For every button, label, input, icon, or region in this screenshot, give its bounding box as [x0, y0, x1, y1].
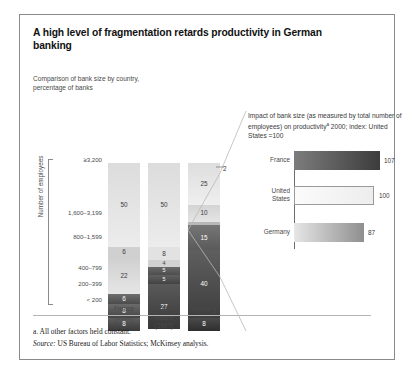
segment-france-400-799: 6 — [108, 294, 140, 304]
productivity-row-germany: Germany 87 — [248, 223, 408, 249]
segment-value: 5 — [148, 269, 180, 274]
segment-value: 40 — [188, 281, 220, 287]
band-label-200-399: 200–399 — [78, 280, 102, 287]
footnote-divider — [33, 315, 371, 316]
rtitle-line-2b: 2000; — [329, 123, 347, 130]
segment-value: 50 — [148, 202, 180, 208]
productivity-label-germany: Germany — [248, 228, 290, 236]
axis-title-number-of-employees: Number of employees — [37, 137, 44, 237]
exhibit-card: A high level of fragmentation retards pr… — [19, 14, 395, 360]
source-line: Source: US Bureau of Labor Statistics; M… — [33, 338, 383, 350]
productivity-bar-germany — [294, 223, 364, 242]
category-label-germany: Germany (2000) — [181, 305, 227, 322]
segment-france-800-1599: 22 — [108, 257, 140, 294]
productivity-row-france: France 107 — [248, 151, 408, 177]
segment-france-3200plus: 50 — [108, 163, 140, 247]
segment-value: 50 — [108, 202, 140, 208]
rtitle-line-1: Impact of bank size (as measured by tota… — [248, 112, 370, 119]
productivity-value-france: 107 — [384, 157, 395, 164]
productivity-value-germany: 87 — [368, 229, 375, 236]
productivity-chart-title: Impact of bank size (as measured by tota… — [248, 111, 408, 140]
segment-value: 15 — [188, 235, 220, 241]
productivity-bar-france — [294, 151, 380, 170]
productivity-label-united-states: United States — [248, 187, 290, 203]
segment-germany-400-799: 15 — [188, 225, 220, 250]
productivity-row-united-states: United States 100 — [248, 186, 408, 212]
segment-value: 6 — [108, 249, 140, 255]
segment-value: 8 — [148, 250, 180, 256]
source-text: US Bureau of Labor Statistics; McKinsey … — [58, 339, 209, 348]
productivity-bar-united-states — [294, 186, 374, 205]
bank-size-chart: Number of employees ≥3,200 1,600–3,199 8… — [20, 15, 230, 331]
band-label-400-799: 400–799 — [78, 264, 102, 271]
band-label-800-1599: 800–1,599 — [73, 233, 102, 240]
footnote-a: a. All other factors held constant. — [33, 326, 383, 338]
footnotes: a. All other factors held constant. Sour… — [33, 326, 383, 350]
axis-bracket — [48, 159, 53, 305]
label-line: France — [248, 156, 290, 164]
productivity-label-france: France — [248, 156, 290, 164]
band-label-under-200: < 200 — [87, 296, 102, 303]
segment-value: 5 — [148, 277, 180, 282]
callout-value-2: 2 — [223, 165, 227, 172]
source-label: Source: — [33, 339, 56, 348]
label-line: Germany — [181, 305, 227, 314]
label-line: Germany — [248, 228, 290, 236]
segment-value: 4 — [148, 261, 180, 266]
segment-us-1600-3199: 8 — [148, 247, 180, 260]
segment-germany-3200plus: 25 — [188, 163, 220, 205]
label-line: United — [248, 187, 290, 195]
label-line: States — [248, 195, 290, 203]
segment-us-200-399: 5 — [148, 275, 180, 283]
employee-band-axis: Number of employees ≥3,200 1,600–3,199 8… — [32, 123, 102, 303]
productivity-chart: Impact of bank size (as measured by tota… — [248, 111, 413, 286]
band-label-1600-3199: 1,600–3,199 — [68, 209, 102, 216]
segment-value: 6 — [108, 296, 140, 302]
segment-value: 22 — [108, 272, 140, 278]
segment-germany-1600-3199: 10 — [188, 205, 220, 222]
segment-value: 25 — [188, 181, 220, 187]
segment-us-800-1599: 4 — [148, 260, 180, 267]
segment-us-3200plus: 50 — [148, 163, 180, 247]
segment-us-400-799: 5 — [148, 267, 180, 275]
segment-france-1600-3199: 6 — [108, 247, 140, 257]
segment-value: 10 — [188, 210, 220, 216]
productivity-value-united-states: 100 — [379, 192, 390, 199]
band-label-3200plus: ≥3,200 — [83, 156, 102, 163]
